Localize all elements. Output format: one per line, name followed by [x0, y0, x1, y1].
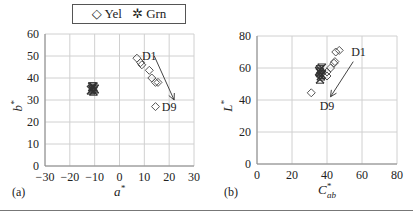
charts: −30−20−1001020300102030405060a*b*(a)D1D9… — [0, 0, 413, 216]
y-tick-label: 60 — [239, 61, 251, 75]
y-tick-label: 0 — [33, 159, 39, 173]
annotation-d9: D9 — [320, 99, 335, 113]
y-tick-label: 40 — [27, 71, 39, 85]
data-point-yel — [133, 54, 141, 62]
y-axis-label: L* — [219, 100, 235, 113]
bottom-divider — [0, 210, 413, 211]
panel-label: (a) — [12, 185, 25, 199]
x-tick-label: −10 — [85, 170, 104, 184]
y-tick-label: 50 — [27, 49, 39, 63]
y-tick-label: 10 — [27, 137, 39, 151]
y-tick-label: 20 — [239, 125, 251, 139]
data-point-yel — [307, 89, 315, 97]
arrowhead-icon — [331, 90, 337, 97]
x-tick-label: 80 — [391, 168, 403, 182]
x-tick-label: −20 — [60, 170, 79, 184]
x-axis-label: C*ab — [318, 181, 337, 200]
annotation-d1: D1 — [351, 45, 366, 59]
x-tick-label: 20 — [163, 170, 175, 184]
panel-label: (b) — [224, 185, 238, 199]
x-tick-label: 30 — [188, 170, 200, 184]
chart-panel-a: −30−20−1001020300102030405060a*b*(a)D1D9 — [9, 27, 200, 199]
y-tick-label: 40 — [239, 93, 251, 107]
x-tick-label: 40 — [321, 168, 333, 182]
data-point-yel — [152, 103, 160, 111]
x-tick-label: 60 — [356, 168, 368, 182]
y-tick-label: 60 — [27, 27, 39, 41]
y-tick-label: 30 — [27, 93, 39, 107]
y-axis-label: b* — [9, 100, 25, 112]
y-tick-label: 20 — [27, 115, 39, 129]
data-point-yel — [152, 78, 160, 86]
x-axis-label: a* — [114, 183, 126, 199]
y-tick-label: 0 — [245, 157, 251, 171]
x-tick-label: 0 — [254, 168, 260, 182]
x-tick-label: 20 — [286, 168, 298, 182]
y-tick-label: 80 — [239, 29, 251, 43]
x-tick-label: 0 — [117, 170, 123, 184]
annotation-d9: D9 — [162, 100, 177, 114]
x-tick-label: 10 — [138, 170, 150, 184]
chart-panel-b: 020406080020406080C*abL*(b)D1D9 — [219, 29, 403, 200]
data-point-yel — [145, 66, 153, 74]
data-point-yel — [154, 78, 162, 86]
